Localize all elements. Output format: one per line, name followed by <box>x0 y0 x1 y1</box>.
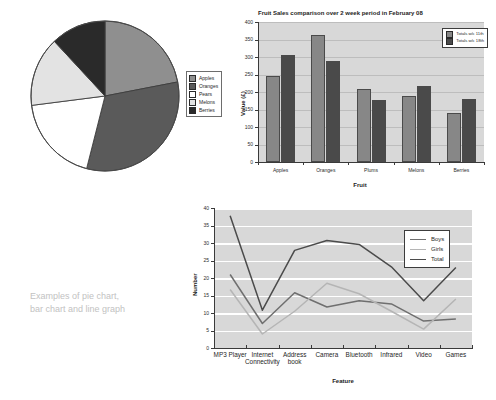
line-x-tick-label-part: Video <box>416 352 432 359</box>
line-x-tick-label-part: MP3 Player <box>214 352 247 359</box>
bar-legend-item: Totals w/c 11th <box>446 31 484 38</box>
line-legend-label-boys: Boys <box>431 236 444 242</box>
pie-legend-swatch-pears <box>189 91 196 98</box>
line-x-tick-label-part: Infrared <box>380 352 402 359</box>
pie-legend-swatch-oranges <box>189 83 196 90</box>
bar-x-tick <box>303 162 304 165</box>
bar-legend: Totals w/c 11th Totals w/c 18th <box>442 28 488 48</box>
line-x-tick-label-internet-connectivity: InternetConnectivity <box>245 352 280 365</box>
pie-chart-graphic <box>30 20 180 172</box>
line-x-tick-label-bluetooth: Bluetooth <box>346 352 373 359</box>
line-x-tick <box>408 345 409 349</box>
line-y-tick-label: 5 <box>206 328 209 333</box>
line-legend-item: Total <box>410 254 444 264</box>
line-x-axis-title: Feature <box>332 378 354 384</box>
bar-x-tick-label-plums: Plums <box>364 168 378 173</box>
bar-x-tick <box>348 162 349 165</box>
line-x-tick-label-part: Connectivity <box>245 359 280 366</box>
pie-legend-item: Berries <box>189 106 218 114</box>
line-y-tick-label: 35 <box>203 223 209 228</box>
bar-legend-item: Totals w/c 18th <box>446 38 484 45</box>
line-x-tick-label-camera: Camera <box>316 352 339 359</box>
line-legend-swatch-girls <box>410 249 426 250</box>
pie-legend-item: Pears <box>189 90 218 98</box>
line-x-tick-label-video: Video <box>416 352 432 359</box>
bar-x-tick <box>394 162 395 165</box>
line-x-tick-label-part: Bluetooth <box>346 352 373 359</box>
pie-chart-figure: Apples Oranges Pears Melons Berries <box>14 14 230 186</box>
bar-legend-swatch-series2 <box>446 38 453 45</box>
line-legend-label-total: Total <box>431 256 444 262</box>
line-y-axis-title: Number <box>192 273 198 296</box>
line-chart-figure: 0510152025303540 MP3 PlayerInternetConne… <box>182 198 494 396</box>
bar-y-tick-label: 0 <box>250 160 253 165</box>
bar-melons-series2 <box>417 86 431 162</box>
pie-legend-item: Melons <box>189 98 218 106</box>
bar-legend-label-series2: Totals w/c 18th <box>456 39 484 43</box>
line-x-tick <box>343 345 344 349</box>
bar-y-axis-line <box>258 22 259 162</box>
bar-berries-series1 <box>447 113 461 162</box>
bar-x-tick-label-oranges: Oranges <box>316 168 335 173</box>
bar-oranges-series1 <box>311 35 325 162</box>
bar-x-tick-label-berries: Berries <box>453 168 469 173</box>
bar-x-tick <box>258 162 259 165</box>
line-x-tick-label-part: Camera <box>316 352 339 359</box>
caption-line-2: bar chart and line graph <box>30 303 180 316</box>
line-y-tick-label: 20 <box>203 276 209 281</box>
line-x-tick <box>440 345 441 349</box>
pie-legend-item: Oranges <box>189 82 218 90</box>
bar-x-axis-title: Fruit <box>353 182 366 188</box>
pie-legend-label-berries: Berries <box>199 108 215 113</box>
line-x-tick <box>472 345 473 349</box>
line-x-tick <box>311 345 312 349</box>
bar-y-axis-title: Value (£) <box>240 91 246 116</box>
line-x-tick-label-games: Games <box>446 352 467 359</box>
line-y-tick-label: 0 <box>206 346 209 351</box>
pie-legend-label-melons: Melons <box>199 100 215 105</box>
pie-legend-swatch-berries <box>189 107 196 114</box>
bar-gridline <box>258 22 484 23</box>
line-x-tick-label-infrared: Infrared <box>380 352 402 359</box>
line-x-tick <box>246 345 247 349</box>
line-plot-area <box>214 208 472 348</box>
bar-plums-series2 <box>372 100 386 162</box>
line-y-axis-line <box>214 208 215 348</box>
line-x-tick-label-mp3-player: MP3 Player <box>214 352 247 359</box>
figure-page: Apples Oranges Pears Melons Berries Frui… <box>0 0 496 400</box>
pie-legend-swatch-melons <box>189 99 196 106</box>
caption-block: Examples of pie chart, bar chart and lin… <box>30 290 180 316</box>
bar-x-tick <box>484 162 485 165</box>
line-legend-swatch-boys <box>410 239 426 240</box>
line-series-svg <box>214 208 472 348</box>
bar-plums-series1 <box>357 89 371 163</box>
bar-y-tick-label: 300 <box>245 55 253 60</box>
bar-x-tick-label-apples: Apples <box>273 168 288 173</box>
line-x-tick <box>214 345 215 349</box>
pie-legend-label-apples: Apples <box>199 76 214 81</box>
bar-apples-series1 <box>266 76 280 162</box>
line-y-tick-label: 25 <box>203 258 209 263</box>
bar-legend-swatch-series1 <box>446 31 453 38</box>
bar-berries-series2 <box>462 99 476 162</box>
bar-x-tick-label-melons: Melons <box>408 168 424 173</box>
pie-legend-label-pears: Pears <box>199 92 212 97</box>
line-legend-swatch-total <box>410 259 426 260</box>
line-x-tick-label-part: book <box>283 359 306 366</box>
line-x-tick-label-address-book: Addressbook <box>283 352 306 365</box>
pie-legend-label-oranges: Oranges <box>199 84 218 89</box>
line-legend: Boys Girls Total <box>404 230 450 268</box>
bar-x-tick <box>439 162 440 165</box>
pie-svg <box>30 20 180 172</box>
line-y-tick-label: 40 <box>203 206 209 211</box>
bar-x-axis-line <box>258 162 484 163</box>
bar-oranges-series2 <box>326 61 340 163</box>
bar-apples-series2 <box>281 55 295 162</box>
line-y-tick-label: 30 <box>203 241 209 246</box>
pie-legend-swatch-apples <box>189 75 196 82</box>
line-legend-item: Girls <box>410 244 444 254</box>
bar-y-tick-label: 250 <box>245 72 253 77</box>
bar-y-tick-label: 400 <box>245 20 253 25</box>
caption-line-1: Examples of pie chart, <box>30 290 180 303</box>
line-x-tick <box>375 345 376 349</box>
